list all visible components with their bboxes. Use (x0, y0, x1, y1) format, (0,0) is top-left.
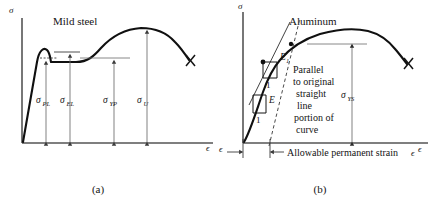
panel-b-y-axis-label: σ (238, 1, 243, 11)
panel-a-sigma-el-symbol: σ (60, 95, 65, 105)
panel-a-fracture-marker (186, 55, 195, 66)
panel-b-offset-epsilon: ϵ (411, 148, 415, 158)
panel-a-sigma-pl-subscript: PL (42, 100, 51, 107)
panel-b-offset-strain-dimension: Allowable permanent strain ϵ (227, 139, 415, 158)
panel-b-caption: (b) (314, 183, 327, 196)
panel-b-x-axis-label-left: ϵ (219, 144, 223, 154)
panel-a-x-axis-label: ϵ (206, 143, 210, 153)
panel-a-caption: (a) (92, 183, 105, 196)
panel-a-material-label: Mild steel (53, 15, 97, 27)
diagram-canvas: σ ϵ Mild steel σ PL (0, 0, 431, 205)
panel-b-tangent-line (249, 22, 290, 105)
panel-b-e1-subscript: 1 (286, 57, 289, 64)
panel-a-y-axis-label: σ (9, 5, 14, 15)
panel-a-marker-sigma-yp: σ YP (103, 61, 117, 143)
panel-a-sigma-u-subscript: U (144, 100, 150, 107)
panel-a-marker-sigma-pl: σ PL (36, 62, 50, 143)
panel-a-curve (23, 28, 189, 142)
panel-b-sigma-ys-symbol: σ (341, 90, 346, 100)
panel-b-e-symbol: E (268, 95, 275, 105)
panel-a-sigma-pl-symbol: σ (36, 95, 41, 105)
panel-b-annotation-line-4: line (297, 100, 313, 111)
panel-a-sigma-yp-symbol: σ (103, 95, 108, 105)
panel-b-annotation-line-1: Parallel (293, 64, 324, 75)
panel-b-annotation-line-5: portion of (294, 112, 334, 123)
panel-a-sigma-yp-subscript: YP (110, 100, 118, 107)
panel-b-annotation-line-3: straight (296, 88, 326, 99)
panel-b-yield-point (289, 42, 293, 46)
stress-strain-figure: σ ϵ Mild steel σ PL (0, 0, 431, 205)
panel-b: σ ϵ ϵ Aluminum E 1 1 (219, 1, 428, 196)
panel-b-x-axis-label: ϵ (418, 144, 422, 154)
panel-b-slope-triangle-e1: E 1 1 (263, 52, 289, 90)
panel-b-annotation-block: Parallel to original straight line porti… (293, 64, 335, 135)
panel-b-sigma-ys-subscript: YS (348, 95, 356, 102)
panel-b-e1-symbol: E (279, 52, 286, 62)
panel-b-material-label: Aluminum (289, 15, 337, 27)
panel-a-sigma-u-symbol: σ (137, 95, 142, 105)
panel-a-marker-sigma-u: σ U (137, 31, 150, 143)
panel-b-offset-label: Allowable permanent strain (287, 147, 398, 158)
panel-a-sigma-el-subscript: EL (66, 100, 75, 107)
panel-a: σ ϵ Mild steel σ PL (9, 5, 213, 196)
panel-b-e-run-label: 1 (256, 115, 261, 125)
panel-a-marker-sigma-el: σ EL (60, 55, 74, 143)
panel-b-annotation-line-2: to original (293, 76, 335, 87)
panel-b-annotation-line-6: curve (296, 124, 319, 135)
panel-b-e1-run-label: 1 (266, 80, 271, 90)
